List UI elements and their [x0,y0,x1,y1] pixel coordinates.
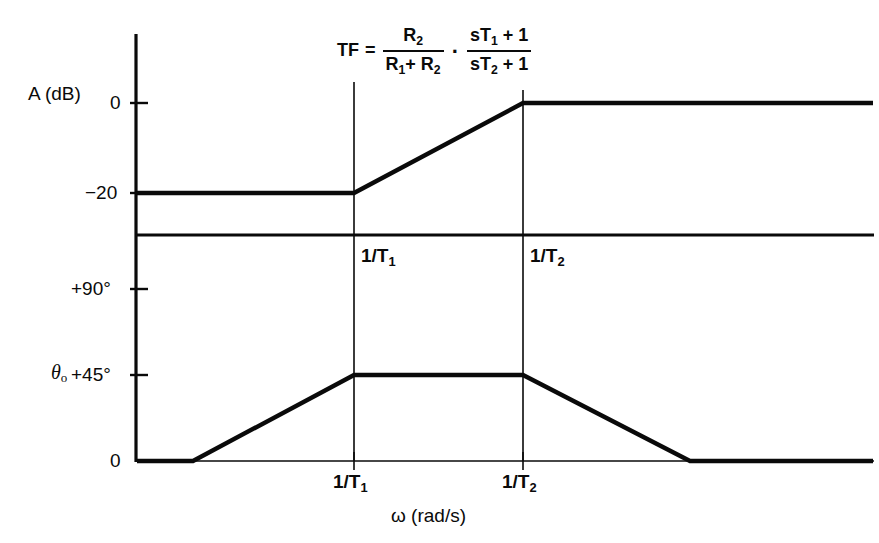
formula-gain-den-r1: R [386,54,399,74]
formula-multiply-dot: · [452,41,459,63]
bode-plot-figure: TF = R2 R1+ R2 · sT1 + 1 sT2 + 1 A (dB) … [0,0,879,543]
ytick-45-degree-sign: ° [103,364,111,385]
formula-ll-num-tail-text: + 1 [503,25,529,45]
ytick-label-minus20-db: −20 [85,183,117,202]
transfer-function-formula: TF = R2 R1+ R2 · sT1 + 1 sT2 + 1 [337,25,531,76]
magnitude-curve [137,103,873,193]
formula-ll-numerator: sT1 + 1 [467,25,531,50]
formula-fraction-lead-lag: sT1 + 1 sT2 + 1 [467,25,531,76]
upper-y-axis-title: A (dB) [28,84,81,103]
formula-fraction-gain: R2 R1+ R2 [383,25,444,76]
plot-canvas [0,0,879,543]
formula-ll-den-sub: 2 [491,62,498,76]
ytick-90-degree-sign: ° [103,278,111,299]
ytick-label-0-deg: 0 [110,451,121,470]
xtick-t2-upper-sub: 2 [557,254,564,269]
ytick-label-plus90-deg: +90° [71,279,111,298]
xtick-label-t2-upper: 1/T2 [530,246,565,269]
xtick-label-t2-lower: 1/T2 [502,472,537,495]
formula-ll-num-sub: 1 [491,34,498,48]
formula-equals: = [365,40,376,61]
ytick-90-value: +90 [71,278,103,299]
xtick-label-t1-upper: 1/T1 [361,246,396,269]
xtick-label-t1-lower: 1/T1 [333,472,368,495]
xtick-t1-lower-sub: 1 [360,480,367,495]
formula-gain-numerator: R2 [400,25,426,50]
xtick-t2-lower-main: 1/T [502,471,529,492]
ytick-label-plus45-deg: +45° [71,365,111,384]
xtick-t1-lower-main: 1/T [333,471,360,492]
lower-y-axis-title: θo [51,362,67,384]
xtick-t2-upper-main: 1/T [530,245,557,266]
formula-ll-den-tail-text: + 1 [503,54,529,74]
phase-curve [137,375,873,461]
formula-lhs: TF [337,40,359,61]
formula-ll-den-text: sT [470,54,491,74]
formula-gain-num-sub: 2 [416,34,423,48]
x-axis-title: ω (rad/s) [391,506,466,525]
ytick-45-value: +45 [71,364,103,385]
formula-gain-num-text: R [403,25,416,45]
xtick-t2-lower-sub: 2 [529,480,536,495]
xtick-t1-upper-sub: 1 [388,254,395,269]
formula-ll-denominator: sT2 + 1 [467,52,531,77]
xtick-t1-upper-main: 1/T [361,245,388,266]
formula-gain-denominator: R1+ R2 [383,52,444,77]
theta-symbol: θ [51,361,61,383]
formula-ll-num-text: sT [470,25,491,45]
theta-subscript: o [61,370,68,385]
formula-gain-den-r2: + R [405,54,434,74]
ytick-label-0-db: 0 [110,93,121,112]
formula-gain-den-sub2: 2 [434,62,441,76]
